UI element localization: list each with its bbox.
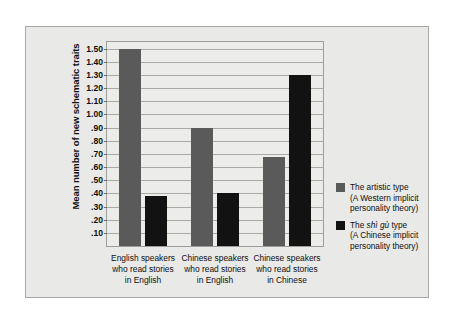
category-label-line: who read stories [184,264,245,274]
x-axis-category-label: Chinese speakerswho read storiesin Chine… [253,253,320,286]
y-axis-tick-mark [104,207,107,208]
y-axis-tick-mark [104,62,107,63]
y-axis-tick-label: 1.50 [86,44,103,54]
legend-label-shigu-type: The shì gù type (A Chinese implicit pers… [350,220,418,252]
y-axis-tick-label: .60 [91,162,103,172]
category-label-line: who read stories [112,264,173,274]
legend-line-3: personality theory) [350,203,418,213]
legend-line-2: (A Chinese implicit [350,230,418,240]
y-axis-tick-mark [104,114,107,115]
bar [119,49,141,246]
bar [191,128,213,246]
legend-line-1-pinyin: shì gù [367,220,390,230]
y-axis-tick-mark [104,128,107,129]
y-axis-tick-label: .70 [91,149,103,159]
y-axis-tick-label: .50 [91,175,103,185]
y-axis-title: Mean number of new schematic traits [70,32,81,222]
category-label-line: in English [125,275,161,285]
category-label-line: in English [197,275,233,285]
y-axis-tick-label: .80 [91,136,103,146]
chart-legend: The artistic type (A Western implicit pe… [336,182,428,257]
bar [217,193,239,246]
legend-line-1: The artistic type [350,182,409,192]
y-axis-tick-mark [104,193,107,194]
y-axis-tick-mark [104,220,107,221]
y-axis-tick-label: .20 [91,215,103,225]
legend-line-3: personality theory) [350,241,418,251]
legend-swatch-shigu-type [336,221,345,230]
y-axis-tick-label: 1.20 [86,83,103,93]
y-axis-tick-label: .30 [91,202,103,212]
legend-item-shigu-type: The shì gù type (A Chinese implicit pers… [336,220,428,252]
y-axis-tick-label: 1.30 [86,70,103,80]
chart-figure: Mean number of new schematic traits .10.… [25,26,429,298]
bar [145,196,167,246]
category-label-line: Chinese speakers [253,253,320,263]
y-axis-tick-mark [104,233,107,234]
y-axis-tick-mark [104,180,107,181]
category-label-line: who read stories [256,264,317,274]
legend-item-artistic-type: The artistic type (A Western implicit pe… [336,182,428,214]
x-axis-category-label: Chinese speakerswho read storiesin Engli… [181,253,248,286]
y-axis-tick-mark [104,141,107,142]
legend-line-2: (A Western implicit [350,193,419,203]
category-label-line: Chinese speakers [181,253,248,263]
y-axis-tick-label: 1.40 [86,57,103,67]
legend-line-1-suffix: type [389,220,407,230]
y-axis-tick-label: .40 [91,188,103,198]
legend-line-1-prefix: The [350,220,367,230]
category-label-line: in Chinese [267,275,307,285]
bar [263,157,285,246]
y-axis-tick-mark [104,75,107,76]
y-axis-tick-mark [104,49,107,50]
y-axis-tick-label: .10 [91,228,103,238]
bar [289,75,311,246]
y-axis-tick-mark [104,167,107,168]
y-axis-tick-mark [104,154,107,155]
legend-label-artistic-type: The artistic type (A Western implicit pe… [350,182,419,214]
y-axis-tick-mark [104,101,107,102]
legend-swatch-artistic-type [336,183,345,192]
y-axis-tick-label: 1.10 [86,96,103,106]
category-label-line: English speakers [111,253,175,263]
y-axis-tick-label: 1.00 [86,109,103,119]
plot-area: .10.20.30.40.50.60.70.80.901.001.101.201… [106,41,324,247]
y-axis-tick-mark [104,88,107,89]
x-axis-category-label: English speakerswho read storiesin Engli… [111,253,175,286]
y-axis-tick-label: .90 [91,123,103,133]
